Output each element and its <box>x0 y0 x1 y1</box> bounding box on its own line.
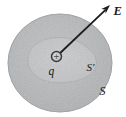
plus-sign-icon: + <box>53 52 59 61</box>
gauss-law-diagram: + E q S′ S <box>0 0 126 117</box>
label-surface-S-prime: S′ <box>87 61 96 73</box>
label-field-E: E <box>113 4 122 18</box>
label-surface-S: S <box>100 84 106 98</box>
figure-canvas: + E q S′ S <box>0 0 126 117</box>
label-charge-q: q <box>49 65 55 78</box>
